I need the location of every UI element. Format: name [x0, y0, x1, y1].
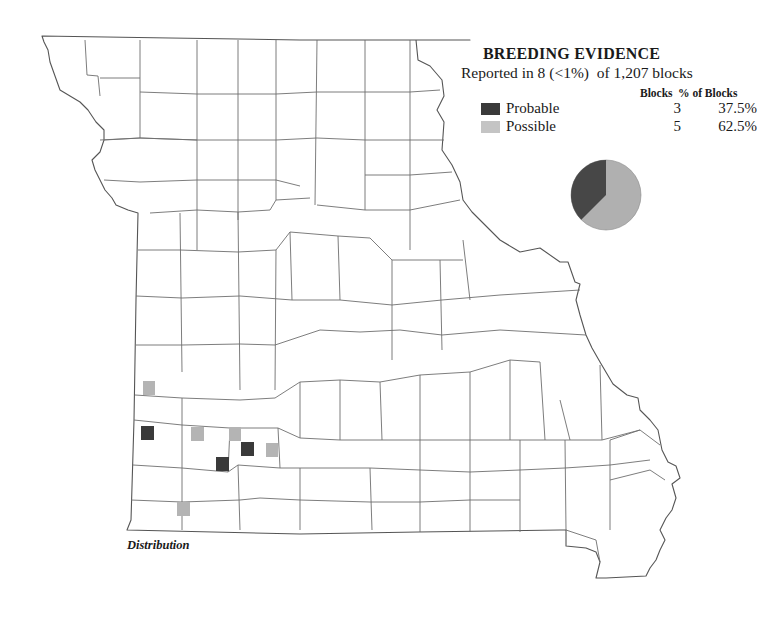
column-header-blocks: Blocks [640, 87, 673, 99]
block-possible [191, 427, 204, 441]
legend-percent: 62.5% [697, 118, 757, 135]
legend-subtitle: Reported in 8 (<1%) of 1,207 blocks [461, 64, 693, 82]
evidence-pie-chart [571, 160, 641, 230]
state-outline [42, 36, 680, 578]
probable-swatch-icon [481, 103, 500, 115]
block-possible [143, 381, 155, 395]
block-probable [216, 457, 229, 471]
legend-label: Possible [506, 118, 556, 135]
block-probable [241, 442, 254, 456]
legend-title: BREEDING EVIDENCE [483, 45, 660, 63]
legend-label: Probable [506, 100, 559, 117]
legend-block-count: 3 [661, 100, 681, 117]
block-possible [177, 502, 190, 516]
block-probable [141, 426, 154, 440]
possible-swatch-icon [481, 121, 500, 133]
legend-percent: 37.5% [697, 100, 757, 117]
map-caption: Distribution [127, 538, 190, 553]
legend-block-count: 5 [661, 118, 681, 135]
block-possible [229, 427, 241, 441]
column-header-percent: % of Blocks [678, 87, 737, 99]
block-possible [266, 443, 278, 457]
